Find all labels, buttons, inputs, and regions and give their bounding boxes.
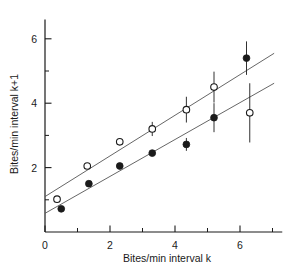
x-axis-tick-label: 6 [237, 239, 243, 251]
regression-line-open-circles [45, 53, 274, 196]
x-axis-tick-label: 0 [42, 239, 48, 251]
x-axis-tick-label: 4 [172, 239, 178, 251]
data-point-open [84, 163, 91, 170]
data-point-filled [149, 150, 156, 157]
data-point-filled [116, 163, 123, 170]
data-point-open [246, 110, 253, 117]
chart-figure: 0246246 Bites/min interval k Bites/min i… [0, 0, 303, 278]
y-axis-tick-label: 2 [31, 162, 37, 174]
data-point-filled [58, 205, 65, 212]
data-point-open [149, 126, 156, 133]
data-point-open [183, 106, 190, 113]
data-point-filled [211, 114, 218, 121]
regression-line-filled-circles [45, 83, 274, 213]
data-point-open [116, 139, 123, 146]
data-point-open [54, 196, 61, 203]
x-axis-tick-label: 2 [107, 239, 113, 251]
x-axis-label: Bites/min interval k [123, 252, 212, 264]
data-point-filled [243, 55, 250, 62]
data-point-filled [85, 180, 92, 187]
data-point-filled [183, 141, 190, 148]
scatter-plot-canvas: 0246246 Bites/min interval k Bites/min i… [0, 0, 303, 278]
y-axis-label: Bites/min interval k+1 [8, 74, 20, 174]
y-axis-tick-label: 4 [31, 97, 37, 109]
y-axis-tick-label: 6 [31, 33, 37, 45]
data-point-open [211, 84, 218, 91]
